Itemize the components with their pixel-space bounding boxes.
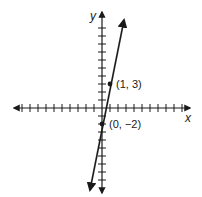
point-1-3 <box>108 82 113 87</box>
point-label-0-neg2: (0, −2) <box>109 118 141 130</box>
point-0-neg2 <box>100 122 105 127</box>
y-axis-label: y <box>89 9 97 23</box>
x-axis-label: x <box>184 111 192 125</box>
point-label-1-3: (1, 3) <box>116 78 142 90</box>
graphed-line <box>90 20 124 190</box>
coordinate-plane: (1, 3) (0, −2) x y <box>0 0 202 197</box>
